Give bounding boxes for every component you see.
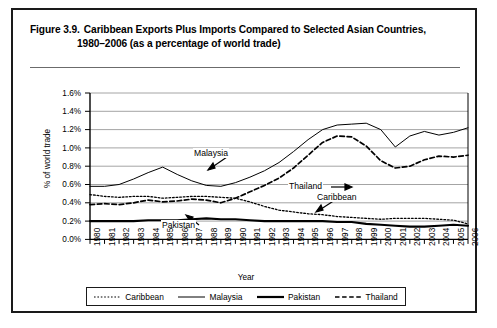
x-axis-title: Year: [13, 273, 479, 282]
x-tick-label: 1986: [181, 228, 190, 246]
x-tick-label: 1987: [195, 228, 204, 246]
line-chart: % of world trade 1.6% 1.4% 1.2% 1.0% 0.8…: [13, 10, 479, 315]
x-tick-label: 1989: [224, 228, 233, 246]
x-tick-label: 2000: [384, 228, 393, 246]
annotation-thailand: Thailand: [288, 181, 323, 191]
legend-label: Malaysia: [209, 292, 242, 302]
legend-swatch-thailand: [335, 293, 362, 301]
x-tick-label: 1984: [152, 228, 161, 246]
legend-swatch-caribbean: [94, 293, 121, 301]
x-tick-label: 1983: [137, 228, 146, 246]
x-tick-label: 1992: [268, 228, 277, 246]
x-tick-label: 1999: [370, 228, 379, 246]
legend-item-malaysia: Malaysia: [178, 292, 242, 302]
chart-legend: Caribbean Malaysia Pakistan Thailand: [86, 287, 406, 306]
x-tick-label: 2003: [428, 228, 437, 246]
annotation-malaysia: Malaysia: [193, 148, 229, 158]
legend-label: Thailand: [366, 292, 398, 302]
x-tick-label: 1993: [282, 228, 291, 246]
x-tick-label: 1994: [297, 228, 306, 246]
series-line-thailand: [90, 136, 468, 205]
plot-canvas: [13, 10, 479, 315]
x-tick-label: 1997: [341, 228, 350, 246]
x-tick-label: 1996: [326, 228, 335, 246]
legend-swatch-malaysia: [178, 293, 205, 301]
x-tick-label: 1991: [253, 228, 262, 246]
x-tick-label: 1985: [166, 228, 175, 246]
legend-item-pakistan: Pakistan: [257, 292, 320, 302]
x-tick-label: 1981: [108, 228, 117, 246]
series-line-pakistan: [90, 218, 468, 226]
x-tick-label: 2002: [413, 228, 422, 246]
x-tick-label: 2006: [471, 228, 480, 246]
legend-item-thailand: Thailand: [335, 292, 398, 302]
annotation-caribbean: Caribbean: [316, 192, 358, 202]
legend-item-caribbean: Caribbean: [94, 292, 164, 302]
x-tick-label: 2001: [399, 228, 408, 246]
x-tick-label: 1995: [311, 228, 320, 246]
y-tick-marks: [85, 93, 90, 239]
x-tick-label: 1980: [93, 228, 102, 246]
x-tick-label: 1990: [239, 228, 248, 246]
figure-frame: Figure 3.9.Caribbean Exports Plus Import…: [11, 8, 477, 313]
data-series-group: [90, 123, 468, 226]
gridlines: [90, 93, 468, 221]
x-tick-label: 1982: [122, 228, 131, 246]
x-tick-label: 2004: [442, 228, 451, 246]
legend-swatch-pakistan: [257, 293, 284, 301]
legend-label: Caribbean: [125, 292, 164, 302]
x-tick-label: 1988: [210, 228, 219, 246]
x-tick-label: 2005: [457, 228, 466, 246]
legend-label: Pakistan: [288, 292, 320, 302]
series-line-malaysia: [90, 123, 468, 186]
x-tick-label: 1998: [355, 228, 364, 246]
